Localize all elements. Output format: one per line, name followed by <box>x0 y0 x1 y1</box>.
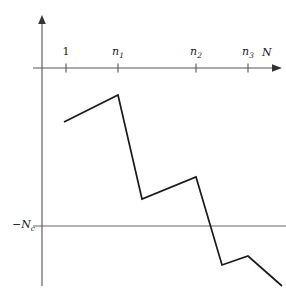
tick-label-n3-sub: 3 <box>249 51 254 60</box>
threshold-label-base: −N <box>12 218 31 231</box>
y-axis-arrowhead-icon <box>38 15 46 24</box>
threshold-label-sub: c <box>31 224 35 233</box>
tick-label-n1: n1 <box>108 46 128 57</box>
tick-label-n3: n3 <box>238 46 258 57</box>
data-series-sawtooth-trajectory <box>64 95 282 286</box>
threshold-label-minus-nc: −Nc <box>12 219 35 230</box>
tick-label-n2-sub: 2 <box>197 51 202 60</box>
x-axis-arrowhead-icon <box>272 64 282 72</box>
tick-label-n1-sub: 1 <box>119 51 124 60</box>
tick-label-1-text: 1 <box>63 45 70 58</box>
tick-label-1: 1 <box>56 46 76 57</box>
tick-label-n2: n2 <box>186 46 206 57</box>
figure-container: N 1 n1 n2 n3 −Nc <box>0 0 286 298</box>
x-axis-label: N <box>262 47 272 58</box>
